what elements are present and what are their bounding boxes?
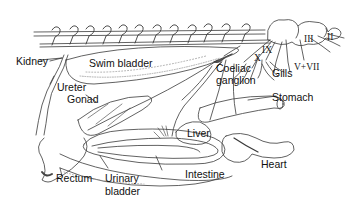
label-liver: Liver [187,128,210,139]
label-urinary-bladder-2: bladder [105,186,140,197]
label-stomach: Stomach [272,92,313,103]
label-nerve-x: X [254,53,261,63]
label-coeliac-2: ganglion [216,75,256,86]
label-nerve-v-vii: V+VII [294,62,319,72]
label-coeliac-1: Coeliac [216,63,251,74]
label-rectum: Rectum [56,173,92,184]
label-nerve-ix: IX [262,45,272,55]
kidney-ureter [36,55,68,135]
label-intestine: Intestine [185,169,225,180]
label-gills: Gills [272,68,292,79]
sympathetic-chain [34,24,270,47]
label-nerve-iii: III [304,34,314,44]
fish-anatomy-diagram: Kidney Swim bladder Ureter Gonad Rectum … [0,0,352,205]
label-heart: Heart [261,159,287,170]
label-ureter: Ureter [57,82,86,93]
label-swim-bladder: Swim bladder [89,58,153,69]
label-urinary-bladder-1: Urinary [105,173,139,184]
label-gonad: Gonad [67,94,99,105]
label-kidney: Kidney [16,56,48,67]
label-nerve-ii: II [327,32,333,42]
